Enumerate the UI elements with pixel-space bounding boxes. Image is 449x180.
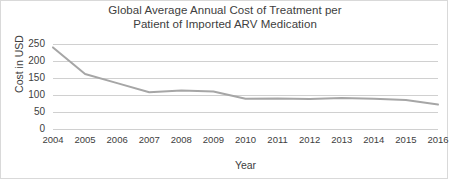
chart-title-line-2: Patient of Imported ARV Medication [1, 17, 449, 31]
x-axis-tick: 2010 [235, 134, 256, 146]
y-axis-tick: 200 [1, 56, 45, 66]
x-axis-tick: 2007 [139, 134, 160, 146]
x-axis-tick: 2012 [299, 134, 320, 146]
gridline [53, 129, 438, 130]
y-axis-tick: 100 [1, 90, 45, 100]
plot-area [53, 44, 438, 129]
y-axis-tick-labels: 050100150200250 [1, 1, 49, 180]
x-axis-label: Year [53, 159, 438, 171]
series-line-chart [53, 44, 438, 129]
x-axis-tick: 2011 [267, 134, 287, 146]
x-axis-tick: 2014 [363, 134, 384, 146]
x-axis-tick: 2013 [331, 134, 352, 146]
x-axis-tick: 2005 [75, 134, 96, 146]
chart-title: Global Average Annual Cost of Treatment … [1, 3, 449, 31]
y-axis-tick: 250 [1, 39, 45, 49]
x-axis-tick: 2015 [395, 134, 416, 146]
x-axis-tick: 2009 [203, 134, 224, 146]
x-axis-tick-labels: 2004200520062007200820092010201120122013… [53, 134, 438, 148]
series-line-path [53, 47, 438, 104]
x-axis-tick: 2016 [427, 134, 448, 146]
x-axis-tick: 2006 [107, 134, 128, 146]
y-axis-tick: 50 [1, 107, 45, 117]
y-axis-tick: 0 [1, 124, 45, 134]
chart-title-line-1: Global Average Annual Cost of Treatment … [1, 3, 449, 17]
x-axis-tick: 2008 [171, 134, 192, 146]
x-axis-tick: 2004 [42, 134, 63, 146]
y-axis-tick: 150 [1, 73, 45, 83]
